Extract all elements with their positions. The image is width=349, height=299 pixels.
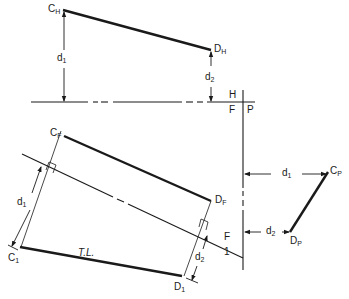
line-cf-df [64, 136, 211, 201]
label-d1-aux: d1 [17, 197, 26, 208]
label-d1-profile: d1 [282, 168, 291, 179]
label-d2-aux: d2 [195, 252, 204, 263]
label-cf: CF [50, 128, 62, 139]
label-fold-f1-1: 1 [224, 247, 230, 257]
line-ch-dh [63, 10, 211, 50]
diagram-canvas [0, 0, 349, 299]
label-df: DF [215, 195, 227, 206]
label-fold-h: H [229, 90, 236, 100]
label-d1-top: d1 [57, 53, 66, 64]
projector-c [21, 131, 61, 247]
label-fold-p: P [247, 105, 254, 115]
line-c1-d1-true-length [20, 247, 182, 276]
projector-d [184, 201, 211, 276]
line-cp-dp [290, 172, 328, 232]
label-cp: CP [330, 166, 342, 177]
fold-line-f1 [22, 154, 243, 258]
label-fold-f1-f: F [224, 232, 230, 242]
label-true-length: T.L. [78, 248, 94, 258]
label-c1: C1 [8, 253, 19, 264]
label-fold-f: F [229, 105, 235, 115]
label-dp: DP [290, 236, 302, 247]
right-angle-d [199, 219, 208, 230]
label-d2-top: d2 [205, 72, 214, 83]
label-ch: CH [48, 4, 60, 15]
label-d1: D1 [174, 282, 185, 293]
label-d2-profile: d2 [266, 226, 275, 237]
label-dh: DH [214, 44, 226, 55]
